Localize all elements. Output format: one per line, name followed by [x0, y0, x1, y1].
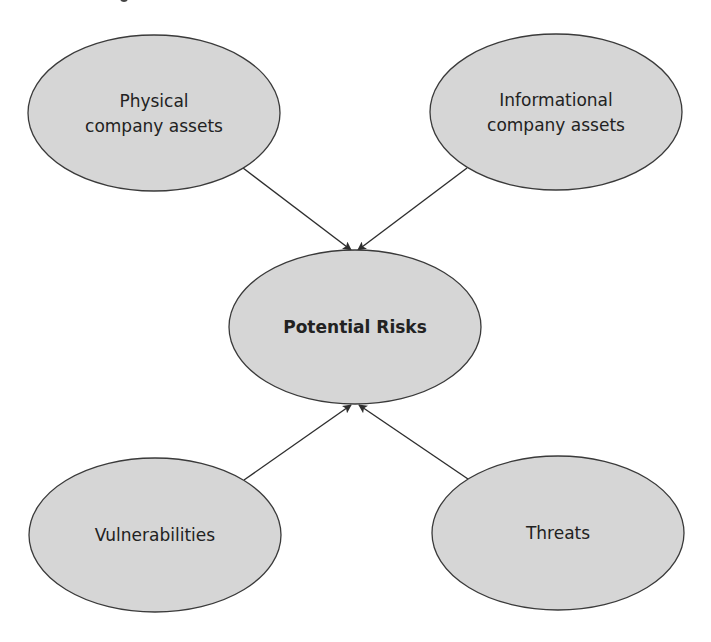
ellipse-informational: [430, 34, 682, 190]
node-vulnerabilities: Vulnerabilities: [29, 458, 281, 612]
node-label-physical: Physical: [119, 91, 188, 111]
node-label-informational: company assets: [487, 115, 625, 135]
risk-diagram: Physicalcompany assetsInformationalcompa…: [0, 0, 711, 642]
node-label-physical: company assets: [85, 116, 223, 136]
node-threats: Threats: [432, 456, 684, 610]
arrow-physical-to-risks: [243, 168, 351, 250]
ellipse-physical: [28, 35, 280, 191]
arrow-vulnerabilities-to-risks: [244, 405, 351, 480]
node-label-informational: Informational: [499, 90, 613, 110]
node-informational: Informationalcompany assets: [430, 34, 682, 190]
arrow-informational-to-risks: [358, 168, 467, 250]
arrow-threats-to-risks: [359, 405, 468, 479]
node-label-vulnerabilities: Vulnerabilities: [95, 525, 215, 545]
node-label-risks: Potential Risks: [283, 317, 427, 337]
node-physical: Physicalcompany assets: [28, 35, 280, 191]
nodes-layer: Physicalcompany assetsInformationalcompa…: [28, 34, 684, 612]
node-risks: Potential Risks: [229, 250, 481, 404]
node-label-threats: Threats: [525, 523, 590, 543]
